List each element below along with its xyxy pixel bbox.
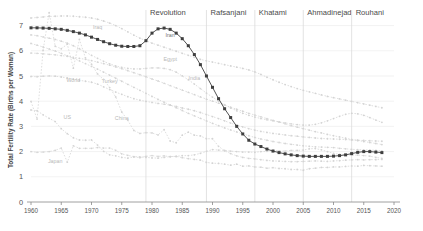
series-point-india	[230, 106, 232, 108]
series-point-iran	[199, 63, 202, 66]
series-point-india	[48, 53, 50, 55]
series-point-india	[139, 74, 141, 76]
series-point-egypt	[145, 68, 147, 70]
series-point-india	[54, 54, 56, 56]
series-point-world	[351, 139, 353, 141]
series-point-japan	[278, 168, 280, 170]
series-point-egypt	[363, 114, 365, 116]
series-point-china	[157, 134, 159, 136]
series-point-china	[97, 73, 99, 75]
series-point-iran	[126, 45, 129, 48]
series-point-japan	[327, 167, 329, 169]
series-point-egypt	[30, 34, 32, 36]
x-axis-tick-label: 2020	[387, 207, 402, 214]
series-point-iraq	[91, 17, 93, 19]
series-point-turkey	[60, 52, 62, 54]
series-point-iran	[36, 26, 39, 29]
series-point-us	[36, 110, 38, 112]
series-point-india	[103, 63, 105, 65]
series-point-iraq	[151, 42, 153, 44]
series-label-india: India	[189, 75, 201, 81]
series-point-india	[260, 116, 262, 118]
series-point-iraq	[193, 56, 195, 58]
series-point-iran	[308, 155, 311, 158]
series-point-world	[363, 140, 365, 142]
series-point-iraq	[72, 15, 74, 17]
series-point-turkey	[121, 80, 123, 82]
series-point-turkey	[314, 146, 316, 148]
series-point-india	[60, 55, 62, 57]
x-axis-tick-label: 1995	[236, 207, 251, 214]
series-point-china	[151, 132, 153, 134]
series-label-us: US	[64, 114, 72, 120]
series-point-iran	[30, 26, 33, 29]
series-point-world	[357, 139, 359, 141]
series-point-china	[218, 145, 220, 147]
series-point-egypt	[103, 60, 105, 62]
series-point-world	[272, 133, 274, 135]
series-point-japan	[121, 153, 123, 155]
series-point-india	[200, 96, 202, 98]
series-point-world	[157, 103, 159, 105]
series-point-world	[151, 102, 153, 104]
series-point-egypt	[133, 68, 135, 70]
fertility-rate-chart: RevolutionRafsanjaniKhatamiAhmadinejadRo…	[0, 0, 423, 231]
y-axis-tick-label: 6	[19, 46, 23, 55]
series-point-us	[54, 121, 56, 123]
series-point-us	[42, 114, 44, 116]
series-point-us	[357, 154, 359, 156]
series-point-china	[212, 138, 214, 140]
series-label-japan: Japan	[48, 158, 62, 164]
series-point-world	[145, 101, 147, 103]
series-point-world	[48, 75, 50, 77]
series-point-world	[30, 76, 32, 78]
series-point-china	[42, 49, 44, 51]
series-point-us	[224, 149, 226, 151]
series-point-egypt	[314, 123, 316, 125]
series-point-japan	[284, 168, 286, 170]
series-point-china	[115, 96, 117, 98]
series-point-china	[308, 160, 310, 162]
x-axis-tick-label: 2010	[326, 207, 341, 214]
series-point-us	[60, 128, 62, 130]
series-point-us	[296, 149, 298, 151]
series-point-egypt	[327, 120, 329, 122]
series-point-china	[333, 160, 335, 162]
series-point-us	[115, 155, 117, 157]
series-point-japan	[381, 165, 383, 167]
series-point-world	[181, 107, 183, 109]
series-point-china	[351, 159, 353, 161]
series-point-iran	[60, 28, 63, 31]
series-point-japan	[145, 156, 147, 158]
x-axis-tick-label: 1980	[145, 207, 160, 214]
series-point-japan	[91, 147, 93, 149]
series-point-turkey	[357, 149, 359, 151]
series-point-japan	[30, 151, 32, 153]
series-point-india	[333, 135, 335, 137]
series-point-iran	[302, 155, 305, 158]
series-point-us	[236, 151, 238, 153]
series-point-india	[308, 129, 310, 131]
series-point-iraq	[85, 16, 87, 18]
series-point-india	[151, 78, 153, 80]
series-point-us	[260, 151, 262, 153]
series-point-turkey	[321, 146, 323, 148]
series-point-india	[339, 136, 341, 138]
series-point-india	[181, 89, 183, 91]
series-point-china	[314, 160, 316, 162]
series-point-iran	[102, 40, 105, 43]
series-point-iraq	[212, 61, 214, 63]
series-point-turkey	[260, 138, 262, 140]
series-point-turkey	[109, 74, 111, 76]
series-point-turkey	[85, 63, 87, 65]
series-point-iran	[114, 44, 117, 47]
series-point-us	[48, 117, 50, 119]
series-point-world	[296, 135, 298, 137]
y-axis-tick-label: 7	[19, 21, 23, 30]
series-point-world	[103, 86, 105, 88]
series-point-iran	[217, 97, 220, 100]
series-point-turkey	[133, 86, 135, 88]
series-point-iran	[229, 116, 232, 119]
series-point-us	[206, 150, 208, 152]
series-point-iraq	[345, 99, 347, 101]
